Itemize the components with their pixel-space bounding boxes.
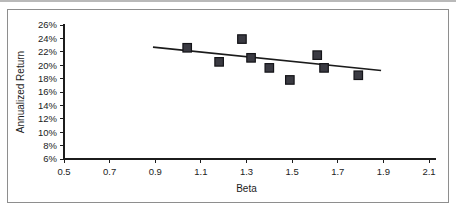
- x-tick-label: 0.9: [149, 166, 162, 177]
- scatter-plot-canvas: 6%8%10%12%14%16%18%20%22%24%26%0.50.70.9…: [8, 10, 448, 202]
- x-tick-label: 1.5: [286, 166, 299, 177]
- y-tick-label: 14%: [38, 100, 58, 111]
- y-tick-label: 22%: [38, 46, 58, 57]
- x-tick-label: 1.7: [331, 166, 344, 177]
- data-point-marker: [265, 64, 274, 73]
- y-tick-label: 8%: [43, 140, 57, 151]
- y-axis-title: Annualized Return: [15, 51, 26, 133]
- data-point-marker: [313, 51, 322, 60]
- data-point-marker: [354, 71, 363, 80]
- y-tick-label: 6%: [43, 153, 57, 164]
- y-tick-label: 10%: [38, 127, 58, 138]
- y-tick-label: 16%: [38, 86, 58, 97]
- data-point-marker: [320, 64, 329, 73]
- top-divider-rule: [0, 0, 456, 2]
- data-point-marker: [238, 35, 247, 44]
- y-tick-label: 26%: [38, 19, 58, 30]
- x-tick-label: 1.3: [240, 166, 253, 177]
- chart-figure: 6%8%10%12%14%16%18%20%22%24%26%0.50.70.9…: [0, 0, 456, 210]
- x-tick-label: 2.1: [422, 166, 435, 177]
- data-point-marker: [215, 58, 224, 67]
- y-tick-label: 12%: [38, 113, 58, 124]
- y-tick-label: 24%: [38, 33, 58, 44]
- x-tick-label: 1.9: [377, 166, 390, 177]
- y-tick-label: 18%: [38, 73, 58, 84]
- x-tick-label: 0.7: [103, 166, 116, 177]
- data-point-marker: [247, 54, 256, 63]
- x-tick-label: 1.1: [194, 166, 207, 177]
- chart-frame: 6%8%10%12%14%16%18%20%22%24%26%0.50.70.9…: [7, 9, 449, 203]
- x-tick-label: 0.5: [57, 166, 70, 177]
- x-axis-title: Beta: [236, 183, 257, 194]
- data-point-marker: [183, 44, 192, 53]
- data-point-marker: [286, 76, 295, 85]
- y-tick-label: 20%: [38, 60, 58, 71]
